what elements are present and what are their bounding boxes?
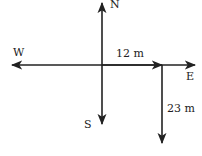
south-distance-label: 23 m	[167, 102, 195, 115]
west-label: W	[13, 46, 25, 59]
east-distance-label: 12 m	[116, 47, 144, 60]
north-label: N	[110, 0, 120, 11]
south-label: S	[84, 118, 92, 131]
diagram-canvas: N W E S 12 m 23 m	[0, 0, 202, 156]
compass-diagram: N W E S 12 m 23 m	[0, 0, 202, 156]
east-label: E	[186, 70, 194, 83]
